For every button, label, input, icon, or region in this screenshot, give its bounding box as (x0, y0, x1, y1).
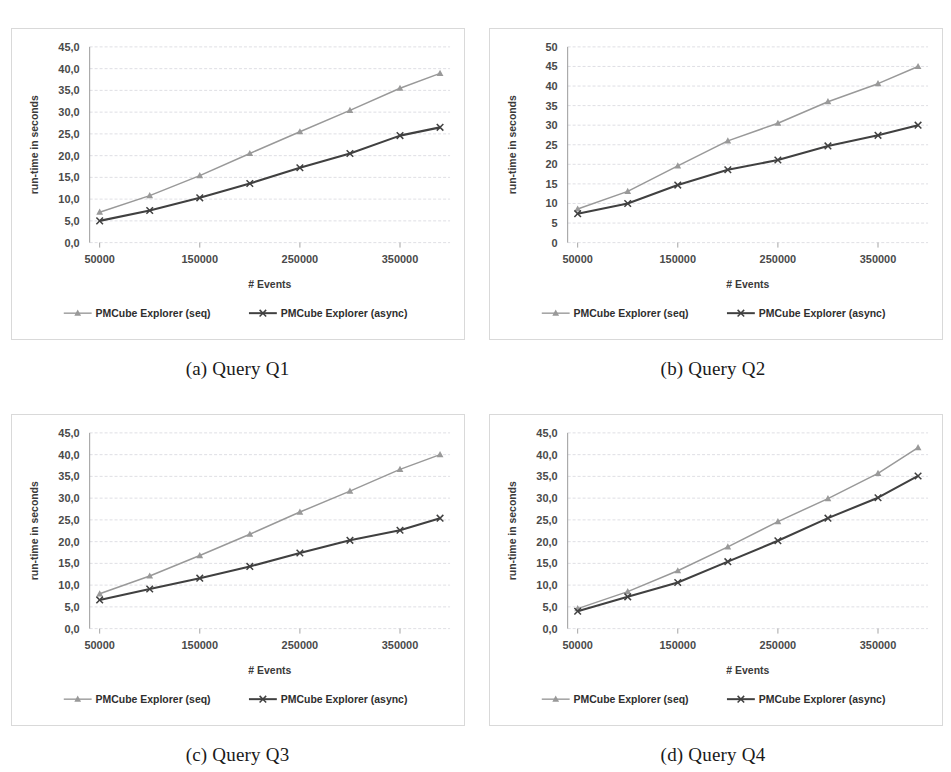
y-axis-tick-label: 5,0 (542, 601, 557, 613)
x-axis-tick-label: 250000 (281, 253, 318, 265)
legend-label: PMCube Explorer (seq) (574, 694, 689, 705)
y-axis-tick-label: 0,0 (64, 623, 79, 635)
triangle-marker-icon (915, 63, 922, 69)
y-axis-tick-label: 35,0 (58, 470, 79, 482)
y-axis-tick-label: 20 (546, 158, 558, 170)
triangle-marker-icon (915, 444, 922, 450)
x-axis-tick-label: 150000 (660, 253, 697, 265)
series-line-async (578, 125, 918, 213)
legend-label: PMCube Explorer (async) (759, 308, 886, 319)
legend-label: PMCube Explorer (async) (280, 694, 407, 705)
y-axis-tick-label: 10,0 (58, 579, 79, 591)
y-axis-tick-label: 40,0 (536, 449, 557, 461)
x-axis-tick-label: 150000 (181, 253, 218, 265)
legend-item-seq[interactable]: PMCube Explorer (seq) (542, 694, 689, 705)
y-axis-tick-label: 30,0 (58, 106, 79, 118)
y-axis-tick-label: 20,0 (58, 536, 79, 548)
legend-item-async[interactable]: PMCube Explorer (async) (248, 694, 406, 705)
x-axis-title: # Events (248, 665, 291, 676)
y-axis-title: run-time in seconds (28, 95, 39, 194)
chart-area-a: 0,05,010,015,020,025,030,035,040,045,050… (12, 29, 464, 339)
y-axis-tick-label: 45 (546, 60, 558, 72)
triangle-marker-icon (436, 451, 443, 457)
legend-item-async[interactable]: PMCube Explorer (async) (727, 694, 885, 705)
subfigure-d: 0,05,010,015,020,025,030,035,040,045,050… (475, 386, 951, 772)
legend-item-async[interactable]: PMCube Explorer (async) (727, 308, 885, 319)
series-line-async (99, 127, 439, 221)
y-axis-tick-label: 35 (546, 100, 558, 112)
y-axis-tick-label: 15 (546, 178, 558, 190)
x-axis-title: # Events (248, 279, 291, 290)
y-axis-tick-label: 20,0 (536, 536, 557, 548)
line-chart-q2: 0510152025303540455050000150000250000350… (490, 29, 942, 339)
legend-item-async[interactable]: PMCube Explorer (async) (248, 308, 406, 319)
y-axis-tick-label: 40,0 (58, 63, 79, 75)
y-axis-tick-label: 5,0 (64, 601, 79, 613)
y-axis-tick-label: 10,0 (536, 579, 557, 591)
chart-area-b: 0510152025303540455050000150000250000350… (490, 29, 942, 339)
y-axis-tick-label: 15,0 (58, 171, 79, 183)
y-axis-tick-label: 30,0 (536, 492, 557, 504)
y-axis-tick-label: 30,0 (58, 492, 79, 504)
chart-panel-d: 0,05,010,015,020,025,030,035,040,045,050… (489, 414, 943, 726)
y-axis-tick-label: 0 (552, 237, 558, 249)
series-line-seq (99, 73, 439, 212)
cross-marker-icon (915, 473, 922, 480)
y-axis-tick-label: 10 (546, 197, 558, 209)
chart-panel-b: 0510152025303540455050000150000250000350… (489, 28, 943, 340)
x-axis-title: # Events (726, 665, 769, 676)
figure-grid: 0,05,010,015,020,025,030,035,040,045,050… (0, 0, 951, 772)
legend-item-seq[interactable]: PMCube Explorer (seq) (63, 308, 210, 319)
y-axis-tick-label: 0,0 (64, 237, 79, 249)
x-axis-tick-label: 50000 (84, 253, 114, 265)
chart-panel-a: 0,05,010,015,020,025,030,035,040,045,050… (11, 28, 465, 340)
x-axis-tick-label: 50000 (84, 639, 114, 651)
x-axis-tick-label: 250000 (281, 639, 318, 651)
legend-label: PMCube Explorer (async) (280, 308, 407, 319)
legend-item-seq[interactable]: PMCube Explorer (seq) (542, 308, 689, 319)
y-axis-tick-label: 30 (546, 119, 558, 131)
legend-label: PMCube Explorer (seq) (95, 694, 210, 705)
y-axis-tick-label: 0,0 (542, 623, 557, 635)
line-chart-q1: 0,05,010,015,020,025,030,035,040,045,050… (12, 29, 464, 339)
y-axis-title: run-time in seconds (507, 481, 518, 580)
y-axis-tick-label: 15,0 (58, 557, 79, 569)
caption-c: (c) Query Q3 (186, 744, 290, 766)
y-axis-tick-label: 25 (546, 139, 558, 151)
x-axis-tick-label: 350000 (860, 639, 897, 651)
y-axis-tick-label: 5 (552, 217, 558, 229)
y-axis-title: run-time in seconds (28, 481, 39, 580)
x-axis-tick-label: 350000 (381, 253, 418, 265)
x-axis-tick-label: 350000 (860, 253, 897, 265)
triangle-marker-icon (436, 70, 443, 76)
legend-item-seq[interactable]: PMCube Explorer (seq) (63, 694, 210, 705)
subfigure-b: 0510152025303540455050000150000250000350… (475, 0, 951, 386)
x-axis-tick-label: 150000 (660, 639, 697, 651)
triangle-marker-icon (875, 470, 882, 476)
series-line-seq (578, 448, 918, 609)
y-axis-tick-label: 35,0 (58, 84, 79, 96)
y-axis-tick-label: 10,0 (58, 193, 79, 205)
series-line-seq (99, 455, 439, 594)
x-axis-tick-label: 50000 (562, 253, 592, 265)
chart-area-c: 0,05,010,015,020,025,030,035,040,045,050… (12, 415, 464, 725)
y-axis-tick-label: 25,0 (536, 514, 557, 526)
x-axis-tick-label: 150000 (181, 639, 218, 651)
y-axis-tick-label: 5,0 (64, 215, 79, 227)
y-axis-title: run-time in seconds (507, 95, 518, 194)
x-axis-tick-label: 50000 (562, 639, 592, 651)
caption-b: (b) Query Q2 (661, 358, 766, 380)
y-axis-tick-label: 15,0 (536, 557, 557, 569)
y-axis-tick-label: 45,0 (536, 427, 557, 439)
y-axis-tick-label: 25,0 (58, 514, 79, 526)
caption-d: (d) Query Q4 (661, 744, 766, 766)
chart-panel-c: 0,05,010,015,020,025,030,035,040,045,050… (11, 414, 465, 726)
legend-label: PMCube Explorer (seq) (95, 308, 210, 319)
subfigure-c: 0,05,010,015,020,025,030,035,040,045,050… (0, 386, 475, 772)
x-axis-tick-label: 250000 (760, 253, 797, 265)
subfigure-a: 0,05,010,015,020,025,030,035,040,045,050… (0, 0, 475, 386)
y-axis-tick-label: 40,0 (58, 449, 79, 461)
x-axis-tick-label: 250000 (760, 639, 797, 651)
y-axis-tick-label: 25,0 (58, 128, 79, 140)
y-axis-tick-label: 50 (546, 41, 558, 53)
